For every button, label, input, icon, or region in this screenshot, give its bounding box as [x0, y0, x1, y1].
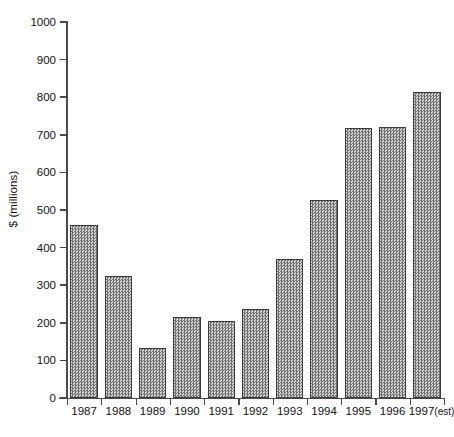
y-tick-mark — [60, 172, 67, 174]
bar-1997 — [413, 92, 440, 398]
bar-1993 — [276, 259, 303, 398]
y-tick-label: 0 — [50, 390, 56, 406]
y-tick-mark — [60, 59, 67, 61]
bar-1994 — [310, 200, 337, 398]
x-tick-label-1987: 1987 — [67, 404, 101, 419]
x-tick-label-1994: 1994 — [307, 404, 341, 419]
bar-1991 — [208, 321, 235, 398]
x-tick-label-1990: 1990 — [170, 404, 204, 419]
y-tick-mark — [60, 322, 67, 324]
y-tick-mark — [60, 209, 67, 211]
y-tick-mark — [60, 134, 67, 136]
y-tick-mark — [60, 360, 67, 362]
plot-area — [67, 22, 444, 398]
x-tick-label-1991: 1991 — [204, 404, 238, 419]
y-tick-label: 700 — [37, 127, 56, 143]
y-tick-label: 100 — [37, 352, 56, 368]
y-tick-mark — [60, 284, 67, 286]
x-tick-label-1993: 1993 — [273, 404, 307, 419]
x-tick-label-1992: 1992 — [238, 404, 272, 419]
y-tick-mark — [60, 397, 67, 399]
bar-1990 — [173, 317, 200, 398]
x-tick-label-1995: 1995 — [341, 404, 375, 419]
y-tick-label: 1000 — [30, 14, 56, 30]
x-tick-label-1997: 1997(est) — [409, 404, 454, 419]
bar-1988 — [105, 276, 132, 398]
y-tick-label: 400 — [37, 240, 56, 256]
y-tick-mark — [60, 21, 67, 23]
y-tick-mark — [60, 247, 67, 249]
bar-1995 — [345, 128, 372, 398]
y-tick-label: 200 — [37, 315, 56, 331]
y-tick-label: 600 — [37, 164, 56, 180]
y-tick-label: 900 — [37, 52, 56, 68]
y-tick-label: 800 — [37, 89, 56, 105]
y-axis-title-text: $ (millions) — [7, 171, 19, 228]
x-tick-label-1989: 1989 — [136, 404, 170, 419]
x-tick-label-1988: 1988 — [101, 404, 135, 419]
bar-1987 — [70, 225, 97, 398]
bar-1996 — [379, 127, 406, 398]
y-tick-mark — [60, 96, 67, 98]
y-tick-label: 300 — [37, 277, 56, 293]
x-tick-mark — [444, 398, 445, 405]
y-axis-title: $ (millions) — [2, 0, 24, 398]
bar-1992 — [242, 309, 269, 398]
y-tick-label: 500 — [37, 202, 56, 218]
x-tick-label-1996: 1996 — [375, 404, 409, 419]
bar-1989 — [139, 348, 166, 398]
